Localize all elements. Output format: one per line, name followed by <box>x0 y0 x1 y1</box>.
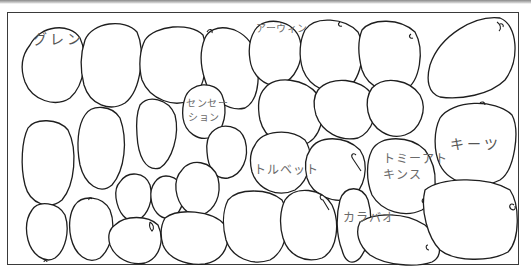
mango <box>224 191 288 262</box>
mango <box>367 81 423 137</box>
label-tommy-atkins-line2: キンス <box>383 168 422 183</box>
label-sensation-line2: ション <box>188 111 220 124</box>
mango <box>281 190 337 260</box>
label-irwin: アーウィン <box>256 22 308 35</box>
label-kent: キーツ <box>450 137 501 152</box>
label-carabao: カラバオ <box>343 211 395 226</box>
mango <box>70 198 113 260</box>
label-tolbert: トルベット <box>254 163 319 178</box>
mango <box>423 180 517 259</box>
mango <box>22 121 74 205</box>
mango <box>137 99 177 168</box>
mango <box>176 162 219 215</box>
label-tommy-atkins-line1: トミーアト <box>383 152 448 167</box>
mango <box>109 218 161 264</box>
label-sensation-line1: センセー <box>186 97 228 110</box>
mango <box>27 204 68 260</box>
mango <box>161 212 227 264</box>
mango <box>116 174 152 221</box>
mango <box>78 107 124 188</box>
mango <box>314 80 375 139</box>
label-glenn: グレン <box>33 32 84 47</box>
mango <box>428 18 515 98</box>
mango <box>81 24 141 107</box>
